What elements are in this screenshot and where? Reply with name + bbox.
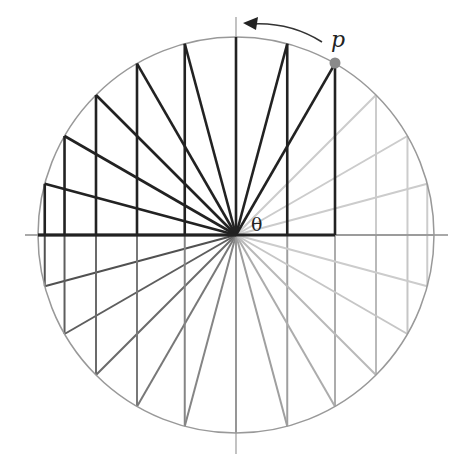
highlighted-triangles <box>38 37 335 235</box>
point-p-label: p <box>331 27 345 52</box>
spoke-225 <box>96 235 236 375</box>
spoke-165 <box>45 184 236 235</box>
arrowhead-icon <box>243 17 258 30</box>
spoke-240 <box>137 235 236 406</box>
spoke-285 <box>236 235 287 426</box>
unit-circle-diagram: p θ <box>0 0 466 472</box>
spoke-105 <box>185 44 236 235</box>
theta-label: θ <box>251 213 262 235</box>
spoke-210 <box>65 235 236 334</box>
spoke-75 <box>236 44 287 235</box>
spoke-315 <box>236 235 376 375</box>
spoke-255 <box>185 235 236 426</box>
spoke-345 <box>236 235 427 286</box>
spoke-195 <box>45 235 236 286</box>
spoke-330 <box>236 235 407 334</box>
spoke-300 <box>236 235 335 406</box>
spoke-60 <box>236 64 335 235</box>
spoke-15 <box>236 184 427 235</box>
point-p-marker <box>330 58 341 69</box>
